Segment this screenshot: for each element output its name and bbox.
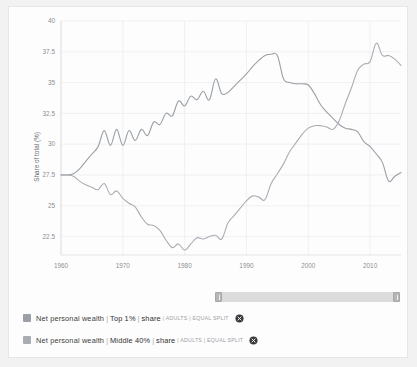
y-axis-label: Share of total (%) <box>33 132 41 182</box>
y-tick-label: 37.5 <box>43 48 56 55</box>
legend-series-group: Middle 40% <box>110 336 150 345</box>
close-icon[interactable] <box>249 336 258 345</box>
legend-series-metric: share <box>142 314 161 323</box>
legend-item-top-1-percent[interactable]: Net personal wealth | Top 1% | share | A… <box>9 307 409 329</box>
legend-series-meta: | ADULTS | EQUAL SPLIT <box>163 315 229 321</box>
x-tick-label: 2010 <box>363 262 378 269</box>
grid-lines <box>61 21 401 255</box>
y-axis-ticks: 4037.53532.53027.52522.5 <box>43 17 56 240</box>
series-line-0 <box>61 53 401 182</box>
chart-legend: Net personal wealth | Top 1% | share | A… <box>9 307 409 351</box>
legend-series-meta: | ADULTS | EQUAL SPLIT <box>177 337 243 343</box>
range-handle-right[interactable] <box>393 292 400 302</box>
x-tick-label: 1960 <box>54 262 69 269</box>
legend-swatch-icon <box>23 336 31 344</box>
chart-panel: 4037.53532.53027.52522.5 196019701980199… <box>8 6 408 358</box>
series-lines <box>61 43 401 250</box>
legend-series-group: Top 1% <box>110 314 136 323</box>
legend-swatch-icon <box>23 314 31 322</box>
time-range-slider[interactable] <box>215 292 400 302</box>
x-tick-label: 2000 <box>301 262 316 269</box>
y-tick-label: 40 <box>48 17 56 24</box>
legend-separator: | <box>106 336 108 345</box>
legend-separator: | <box>152 336 154 345</box>
y-tick-label: 30 <box>48 140 56 147</box>
y-tick-label: 27.5 <box>43 171 56 178</box>
line-chart-svg: 4037.53532.53027.52522.5 196019701980199… <box>9 7 409 289</box>
x-tick-label: 1970 <box>116 262 131 269</box>
legend-series-base: Net personal wealth <box>36 336 104 345</box>
close-icon[interactable] <box>235 314 244 323</box>
y-tick-label: 35 <box>48 79 56 86</box>
legend-item-middle-40-percent[interactable]: Net personal wealth | Middle 40% | share… <box>9 329 409 351</box>
x-axis-ticks: 196019701980199020002010 <box>54 262 378 269</box>
y-tick-label: 22.5 <box>43 233 56 240</box>
legend-separator: | <box>138 314 140 323</box>
series-line-1 <box>61 43 401 250</box>
y-tick-label: 32.5 <box>43 110 56 117</box>
x-tick-label: 1980 <box>178 262 193 269</box>
y-tick-label: 25 <box>48 202 56 209</box>
legend-series-base: Net personal wealth <box>36 314 104 323</box>
legend-separator: | <box>106 314 108 323</box>
legend-series-metric: share <box>156 336 175 345</box>
range-handle-left[interactable] <box>215 292 222 302</box>
chart-plot-area[interactable]: 4037.53532.53027.52522.5 196019701980199… <box>9 7 409 289</box>
x-tick-label: 1990 <box>239 262 254 269</box>
